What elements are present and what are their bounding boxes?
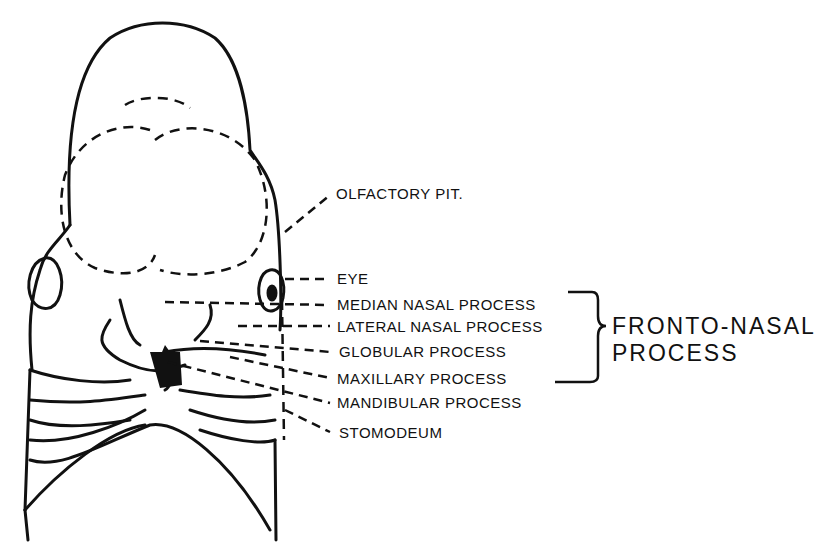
label-maxillary-process: MAXILLARY PROCESS [337, 370, 507, 387]
label-globular-process: GLOBULAR PROCESS [339, 343, 506, 360]
label-median-nasal-process: MEDIAN NASAL PROCESS [337, 296, 536, 313]
group-label-fronto-nasal-process: FRONTO-NASAL PROCESS [612, 313, 816, 367]
fronto-nasal-bracket [555, 292, 606, 382]
embryo-face-drawing [0, 0, 837, 553]
diagram-canvas: OLFACTORY PIT. EYE MEDIAN NASAL PROCESS … [0, 0, 837, 553]
head-outline [69, 23, 281, 330]
group-label-line2: PROCESS [612, 340, 816, 367]
group-label-line1: FRONTO-NASAL [612, 313, 816, 340]
label-olfactory-pit: OLFACTORY PIT. [336, 185, 463, 202]
left-eye [29, 258, 62, 309]
label-stomodeum: STOMODEUM [339, 424, 442, 441]
label-eye: EYE [337, 270, 369, 287]
label-lateral-nasal-process: LATERAL NASAL PROCESS [337, 318, 543, 335]
label-mandibular-process: MANDIBULAR PROCESS [337, 394, 522, 411]
